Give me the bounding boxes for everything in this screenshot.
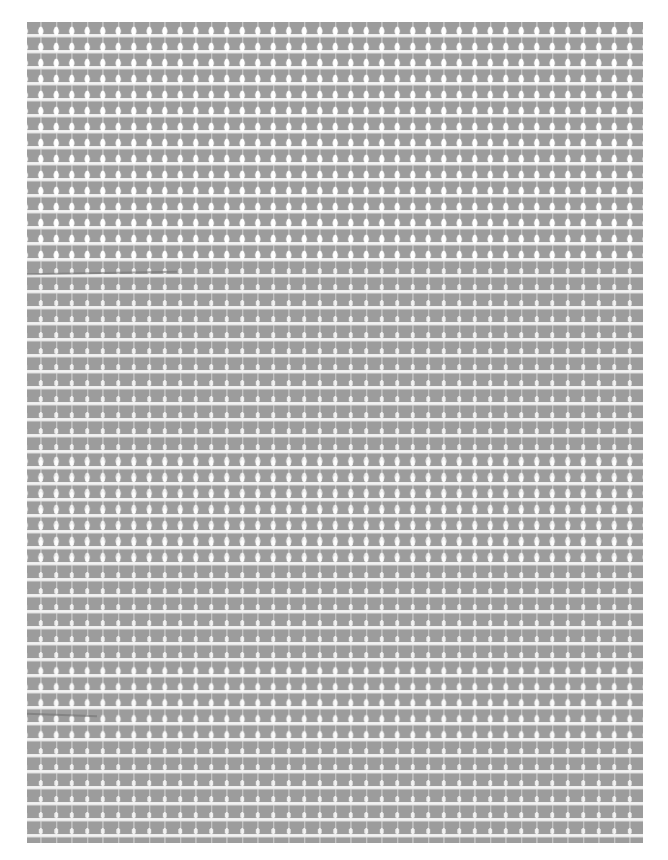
open-weave-band-lower [27, 662, 643, 742]
open-weave-band-top [27, 22, 643, 262]
open-weave-band-middle [27, 452, 643, 562]
woven-fabric-texture [27, 22, 643, 843]
